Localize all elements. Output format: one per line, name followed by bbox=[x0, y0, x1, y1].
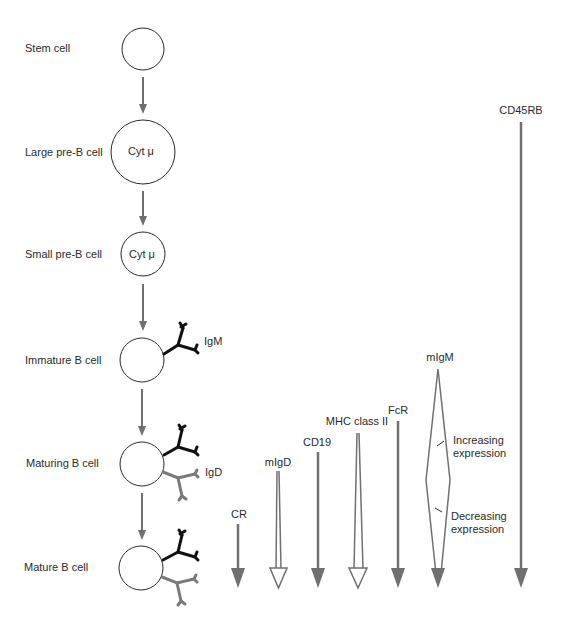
stem-cell-circle bbox=[122, 28, 164, 70]
decreasing-line2: expression bbox=[451, 523, 507, 536]
marker-label-migd: mIgD bbox=[265, 456, 291, 468]
fcr-expression-arrow bbox=[391, 421, 405, 588]
marker-label-fcr: FcR bbox=[388, 404, 408, 416]
cytoplasmic-mu-label: Cyt μ bbox=[129, 248, 155, 260]
mature-b-cell-circle bbox=[119, 546, 163, 590]
cr-expression-arrow bbox=[231, 524, 245, 588]
igd-receptor-icon bbox=[163, 470, 198, 500]
decreasing-line1: Decreasing bbox=[451, 510, 507, 523]
stage-label-maturing-b-cell: Maturing B cell bbox=[26, 457, 99, 469]
marker-label-cr: CR bbox=[231, 508, 247, 520]
immature-b-cell-circle bbox=[120, 338, 164, 382]
migm-expression-arrow bbox=[426, 369, 450, 588]
stage-label-large-pre-b-cell: Large pre-B cell bbox=[25, 146, 103, 158]
stage-label-stem-cell: Stem cell bbox=[25, 42, 70, 54]
marker-label-cd45rb: CD45RB bbox=[499, 104, 542, 116]
increasing-line2: expression bbox=[453, 447, 506, 460]
igd-label: IgD bbox=[205, 466, 222, 478]
increasing-line1: Increasing bbox=[453, 434, 506, 447]
igm-receptor-icon bbox=[164, 323, 198, 354]
cd45rb-expression-arrow bbox=[514, 122, 528, 588]
igm-receptor-icon bbox=[163, 530, 198, 560]
marker-label-mhc-class-ii: MHC class II bbox=[326, 415, 388, 427]
stage-label-mature-b-cell: Mature B cell bbox=[24, 561, 88, 573]
migd-expression-arrow bbox=[270, 471, 287, 588]
cd19-expression-arrow bbox=[311, 452, 325, 588]
maturing-b-cell-circle bbox=[120, 442, 164, 486]
marker-label-migm: mIgM bbox=[426, 351, 454, 363]
stage-label-small-pre-b-cell: Small pre-B cell bbox=[25, 248, 102, 260]
stage-label-immature-b-cell: Immature B cell bbox=[25, 354, 101, 366]
igd-receptor-icon bbox=[162, 575, 197, 605]
cytoplasmic-mu-label: Cyt μ bbox=[128, 145, 154, 157]
marker-label-cd19: CD19 bbox=[303, 436, 331, 448]
increasing-expression-annotation: Increasing expression bbox=[453, 434, 506, 460]
decreasing-expression-annotation: Decreasing expression bbox=[451, 510, 507, 536]
mhc-class-ii-expression-arrow bbox=[349, 433, 367, 588]
igm-label: IgM bbox=[204, 335, 222, 347]
igm-receptor-icon bbox=[164, 425, 198, 455]
